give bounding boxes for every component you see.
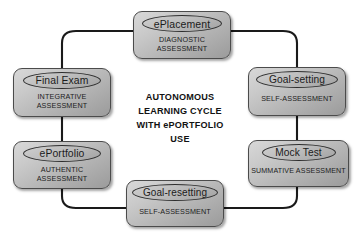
node-goal-setting-label: Goal-setting — [256, 71, 338, 88]
cycle-diagram: ePlacement DIAGNOSTIC ASSESSMENT Goal-se… — [0, 0, 358, 239]
node-eplacement-subtitle: DIAGNOSTIC ASSESSMENT — [157, 35, 208, 53]
node-eplacement[interactable]: ePlacement DIAGNOSTIC ASSESSMENT — [133, 11, 231, 59]
connector-goalresetting-to-eportfolio — [62, 189, 126, 208]
node-goal-resetting-subtitle: SELF-ASSESSMENT — [139, 207, 211, 216]
node-final-exam-subtitle: INTEGRATIVE ASSESSMENT — [37, 92, 88, 110]
node-goal-setting-subtitle: SELF-ASSESSMENT — [261, 94, 333, 103]
node-goal-resetting[interactable]: Goal-resetting SELF-ASSESSMENT — [126, 180, 224, 227]
node-goal-resetting-label: Goal-resetting — [132, 184, 218, 201]
node-goal-setting[interactable]: Goal-setting SELF-ASSESSMENT — [248, 67, 346, 116]
node-mock-test-label: Mock Test — [262, 144, 336, 161]
connector-eplacement-to-goalsetting — [231, 31, 297, 67]
node-eplacement-label: ePlacement — [142, 15, 222, 32]
node-mock-test-subtitle: SUMMATIVE ASSESSMENT — [251, 167, 346, 176]
center-caption: AUTONOMOUS LEARNING CYCLE WITH ePORTFOLI… — [112, 90, 248, 146]
node-final-exam[interactable]: Final Exam INTEGRATIVE ASSESSMENT — [13, 68, 111, 117]
connector-finalexam-to-eplacement — [62, 31, 133, 68]
node-eportfolio[interactable]: ePortfolio AUTHENTIC ASSESSMENT — [13, 141, 111, 189]
connector-mocktest-to-goalresetting — [224, 187, 297, 208]
node-eportfolio-subtitle: AUTHENTIC ASSESSMENT — [37, 165, 88, 183]
node-eportfolio-label: ePortfolio — [23, 145, 101, 162]
node-final-exam-label: Final Exam — [23, 72, 101, 89]
node-mock-test[interactable]: Mock Test SUMMATIVE ASSESSMENT — [248, 140, 349, 187]
